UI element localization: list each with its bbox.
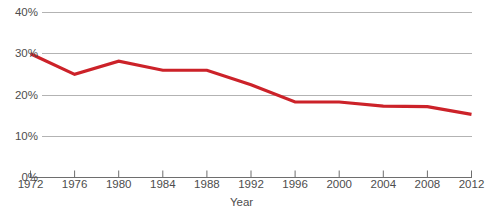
xtick-label-1976-wrap: 1976 (53, 178, 97, 192)
xtick-label-1992-wrap: 1992 (229, 178, 273, 192)
ytick-label-30-wrap: 30% (0, 48, 38, 60)
ytick-label-10-wrap: 10% (0, 131, 38, 143)
xtick-label-1976: 1976 (53, 178, 97, 191)
x-axis (30, 171, 472, 178)
gridlines (42, 13, 472, 137)
ytick-label-40-wrap: 40% (0, 7, 38, 19)
x-axis-title: Year (0, 196, 483, 209)
ytick-label-20: 20% (2, 90, 38, 102)
data-series-line (31, 54, 472, 115)
xtick-label-2012-wrap: 2012 (450, 178, 489, 192)
ytick-label-40: 40% (2, 7, 38, 19)
xtick-label-1980: 1980 (97, 178, 141, 191)
ytick-label-30: 30% (2, 48, 38, 60)
xtick-label-2012: 2012 (450, 178, 489, 191)
xtick-label-1972-wrap: 1972 (9, 178, 53, 192)
xtick-label-1988-wrap: 1988 (185, 178, 229, 192)
xtick-label-1984: 1984 (141, 178, 185, 191)
xtick-label-1972: 1972 (9, 178, 53, 191)
ytick-label-10: 10% (2, 131, 38, 143)
xtick-label-2008-wrap: 2008 (405, 178, 449, 192)
xtick-label-1988: 1988 (185, 178, 229, 191)
ytick-label-20-wrap: 20% (0, 90, 38, 102)
xtick-label-2000: 2000 (317, 178, 361, 191)
xtick-label-1992: 1992 (229, 178, 273, 191)
xtick-label-1980-wrap: 1980 (97, 178, 141, 192)
xtick-label-1996-wrap: 1996 (273, 178, 317, 192)
xtick-label-2004: 2004 (361, 178, 405, 191)
xtick-label-2000-wrap: 2000 (317, 178, 361, 192)
xtick-label-1984-wrap: 1984 (141, 178, 185, 192)
xtick-label-2004-wrap: 2004 (361, 178, 405, 192)
xtick-label-1996: 1996 (273, 178, 317, 191)
xtick-label-2008: 2008 (405, 178, 449, 191)
